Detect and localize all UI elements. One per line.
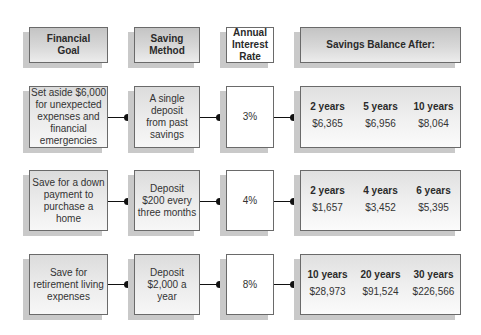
row3-goal: Save for retirement living expenses <box>29 254 108 315</box>
row2-method-text: Deposit $200 every three months <box>138 183 196 219</box>
header-savings-balance-label: Savings Balance After: <box>326 39 435 51</box>
balance-period: 30 years <box>407 269 460 281</box>
row2-goal: Save for a down payment to purchase a ho… <box>29 170 108 231</box>
balance-period: 2 years <box>301 101 354 113</box>
header-savings-balance: Savings Balance After: <box>300 27 461 63</box>
row2-connector-dot-2 <box>216 198 223 205</box>
row2-balance-col: 4 years $3,452 <box>354 185 407 214</box>
balance-amount: $91,524 <box>354 286 407 298</box>
balance-amount: $226,566 <box>407 286 460 298</box>
row3-balance-col: 10 years $28,973 <box>301 269 354 298</box>
row3-method-text: Deposit $2,000 a year <box>148 267 187 303</box>
balance-amount: $5,395 <box>407 202 460 214</box>
row3-connector-dot-2 <box>216 281 223 288</box>
row2-balance-col: 2 years $1,657 <box>301 185 354 214</box>
balance-amount: $6,365 <box>301 118 354 130</box>
balance-amount: $6,956 <box>354 118 407 130</box>
balance-amount: $1,657 <box>301 202 354 214</box>
row2-method: Deposit $200 every three months <box>134 170 200 231</box>
row3-connector-dot-3 <box>290 281 297 288</box>
row1-balance-col: 2 years $6,365 <box>301 101 354 130</box>
row2-balances: 2 years $1,657 4 years $3,452 6 years $5… <box>300 170 461 231</box>
row3-method: Deposit $2,000 a year <box>134 254 200 315</box>
row1-connector-dot-3 <box>290 114 297 121</box>
row3-balance-col: 30 years $226,566 <box>407 269 460 298</box>
row2-rate-text: 4% <box>243 195 257 207</box>
header-interest-rate: Annual Interest Rate <box>226 27 274 63</box>
row1-rate: 3% <box>226 86 274 148</box>
row1-rate-text: 3% <box>243 111 257 123</box>
balance-period: 4 years <box>354 185 407 197</box>
header-saving-method: Saving Method <box>134 27 200 63</box>
header-financial-goal: Financial Goal <box>29 27 108 63</box>
row3-goal-text: Save for retirement living expenses <box>33 267 104 303</box>
row1-balance-col: 10 years $8,064 <box>407 101 460 130</box>
balance-amount: $8,064 <box>407 118 460 130</box>
row3-rate: 8% <box>226 254 274 315</box>
row2-connector-dot-3 <box>290 198 297 205</box>
balance-period: 5 years <box>354 101 407 113</box>
header-financial-goal-label: Financial Goal <box>47 33 90 57</box>
row2-balance-col: 6 years $5,395 <box>407 185 460 214</box>
row2-goal-text: Save for a down payment to purchase a ho… <box>30 177 107 225</box>
row1-balance-col: 5 years $6,956 <box>354 101 407 130</box>
row1-balances: 2 years $6,365 5 years $6,956 10 years $… <box>300 86 461 148</box>
balance-period: 10 years <box>407 101 460 113</box>
row2-rate: 4% <box>226 170 274 231</box>
row1-connector-dot-2 <box>216 114 223 121</box>
row3-rate-text: 8% <box>243 279 257 291</box>
row1-connector-dot-1 <box>124 114 131 121</box>
row3-balance-col: 20 years $91,524 <box>354 269 407 298</box>
row1-method-text: A single deposit from past savings <box>146 93 188 141</box>
balance-period: 20 years <box>354 269 407 281</box>
row1-goal: Set aside $6,000 for unexpected expenses… <box>29 86 108 148</box>
row2-connector-dot-1 <box>124 198 131 205</box>
row3-connector-dot-1 <box>124 281 131 288</box>
balance-period: 10 years <box>301 269 354 281</box>
row1-method: A single deposit from past savings <box>134 86 200 148</box>
balance-amount: $28,973 <box>301 286 354 298</box>
balance-amount: $3,452 <box>354 202 407 214</box>
header-interest-rate-label: Annual Interest Rate <box>232 27 268 63</box>
row3-balances: 10 years $28,973 20 years $91,524 30 yea… <box>300 254 461 315</box>
header-saving-method-label: Saving Method <box>149 33 185 57</box>
balance-period: 2 years <box>301 185 354 197</box>
balance-period: 6 years <box>407 185 460 197</box>
row1-goal-text: Set aside $6,000 for unexpected expenses… <box>31 87 106 147</box>
